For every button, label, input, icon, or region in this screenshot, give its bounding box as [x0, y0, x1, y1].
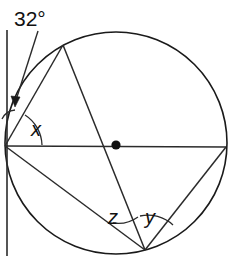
- leader-line-32-degrees: [16, 31, 38, 100]
- label-angle-x: x: [30, 118, 42, 140]
- circle-center-dot: [111, 140, 120, 149]
- label-angle-y: y: [143, 206, 156, 228]
- label-32-degrees: 32°: [14, 7, 46, 30]
- circle-geometry-diagram: 32° x z y: [0, 0, 232, 264]
- geometry-figure-container: 32° x z y: [0, 0, 232, 264]
- chord-bottom-to-right: [145, 147, 226, 250]
- label-angle-z: z: [107, 206, 118, 228]
